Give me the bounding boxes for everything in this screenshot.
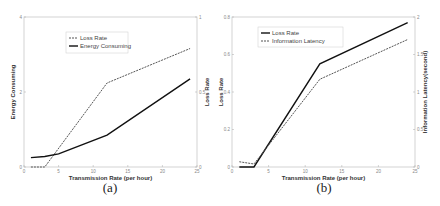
legend-entry: Energy Consuming [80, 43, 131, 49]
x-tick-label: 10 [303, 169, 309, 174]
y-right-tick-label: 1 [199, 15, 202, 20]
figure: 051015202502400.51Transmission Rate (per… [0, 0, 440, 206]
y-axis-label: Energy Consuming [10, 64, 16, 119]
x-tick-label: 10 [91, 169, 97, 174]
x-tick-label: 5 [267, 169, 270, 174]
series-line [31, 79, 190, 158]
legend [258, 27, 343, 47]
panel-caption: (b) [316, 180, 331, 195]
y-right-axis-label: Loss Rate [204, 77, 210, 106]
y-right-tick-label: 2 [417, 15, 420, 20]
chart-panel-a: 051015202502400.51Transmission Rate (per… [10, 15, 210, 196]
y-right-tick-label: 0 [417, 165, 420, 170]
legend-entry: Loss Rate [272, 30, 300, 36]
x-tick-label: 25 [412, 169, 418, 174]
x-tick-label: 20 [376, 169, 382, 174]
y-tick-label: 4 [19, 15, 22, 20]
legend-entry: Information Latency [272, 38, 325, 44]
y-tick-label: 2 [19, 90, 22, 95]
y-tick-label: 0.2 [224, 127, 231, 132]
series-line [31, 49, 190, 168]
y-tick-label: 0.4 [224, 90, 231, 95]
y-right-tick-label: 0 [199, 165, 202, 170]
y-right-axis-label: Information Latency(second) [422, 51, 428, 133]
legend-entry: Loss Rate [80, 35, 108, 41]
x-tick-label: 25 [194, 169, 200, 174]
series-line [239, 40, 407, 165]
chart-panel-b: 051015202500.20.40.60.800.511.52Transmis… [218, 15, 428, 196]
y-axis-label: Loss Rate [218, 77, 224, 106]
x-tick-label: 0 [23, 169, 26, 174]
panel-caption: (a) [103, 180, 117, 195]
x-tick-label: 15 [125, 169, 131, 174]
y-tick-label: 0.6 [224, 52, 231, 57]
x-tick-label: 5 [57, 169, 60, 174]
x-tick-label: 20 [160, 169, 166, 174]
x-tick-label: 15 [339, 169, 345, 174]
y-right-tick-label: 1 [417, 90, 420, 95]
x-tick-label: 0 [231, 169, 234, 174]
y-tick-label: 0.8 [224, 15, 231, 20]
